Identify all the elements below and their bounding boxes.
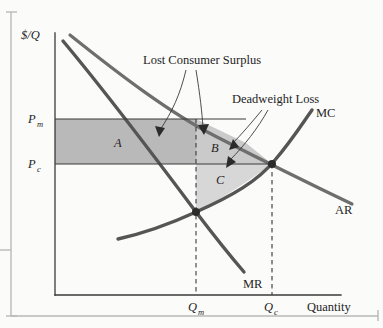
region-a-fill [55,119,196,164]
svg-text:m: m [198,307,204,317]
y-axis-label: $/Q [21,28,40,42]
lost-consumer-surplus-label: Lost Consumer Surplus [143,53,261,67]
qc-tick-label: Q c [264,300,278,317]
monopoly-output-point [192,208,200,216]
svg-text:P: P [27,157,36,171]
svg-text:P: P [27,112,36,126]
pm-tick-label: P m [27,112,43,129]
pc-tick-label: P c [27,157,41,174]
monopoly-deadweight-loss-diagram: $/Q P m P c Q m Q c Quantity MC AR MR A … [0,0,383,328]
svg-text:c: c [37,164,41,174]
region-c-label: C [216,173,225,187]
svg-text:m: m [37,119,43,129]
x-axis-label: Quantity [307,300,351,314]
mc-curve-label: MC [316,106,335,120]
region-b-label: B [211,141,219,155]
svg-text:Q: Q [188,300,197,314]
ar-curve-label: AR [335,203,353,217]
svg-text:Q: Q [264,300,273,314]
region-c-fill [196,164,272,212]
deadweight-loss-label: Deadweight Loss [232,92,319,106]
qm-tick-label: Q m [188,300,204,317]
region-a-label: A [113,136,122,150]
competitive-output-point [268,160,276,168]
mr-curve-label: MR [243,277,263,291]
svg-text:c: c [274,307,278,317]
